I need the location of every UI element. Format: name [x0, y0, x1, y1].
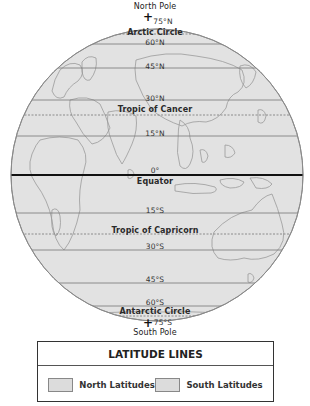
- antarctic-circle-label: Antarctic Circle: [0, 307, 310, 316]
- latitude-label-45s: 45°S: [0, 275, 310, 284]
- north-pole-label: North Pole: [0, 2, 310, 11]
- latitude-label-75n: 75°N: [8, 17, 310, 26]
- north-latitudes-swatch: [48, 378, 73, 392]
- latitude-label-equator-degree: 0°: [0, 166, 310, 175]
- latitude-label-30s: 30°S: [0, 242, 310, 251]
- south-pole-marker-icon: +: [0, 319, 303, 328]
- latitude-label-30n: 30°N: [0, 94, 310, 103]
- legend-items: North Latitudes South Latitudes: [38, 366, 273, 403]
- legend-item-south: South Latitudes: [155, 378, 262, 392]
- legend-box: LATITUDE LINES North Latitudes South Lat…: [37, 341, 274, 402]
- latitude-label-15n: 15°N: [0, 129, 310, 138]
- tropic-of-capricorn-label: Tropic of Capricorn: [0, 226, 310, 235]
- latitude-label-60n: 60°N: [0, 38, 310, 47]
- legend-title: LATITUDE LINES: [38, 342, 273, 366]
- north-latitudes-label: North Latitudes: [79, 380, 154, 390]
- latitude-label-45n: 45°N: [0, 62, 310, 71]
- tropic-of-cancer-label: Tropic of Cancer: [0, 105, 310, 114]
- south-latitudes-label: South Latitudes: [186, 380, 262, 390]
- equator-label: Equator: [0, 177, 310, 186]
- arctic-circle-label: Arctic Circle: [0, 28, 310, 37]
- south-pole-label: South Pole: [0, 328, 310, 337]
- legend-item-north: North Latitudes: [48, 378, 154, 392]
- latitude-label-15s: 15°S: [0, 206, 310, 215]
- south-latitudes-swatch: [155, 378, 180, 392]
- latitude-label-60s: 60°S: [0, 298, 310, 307]
